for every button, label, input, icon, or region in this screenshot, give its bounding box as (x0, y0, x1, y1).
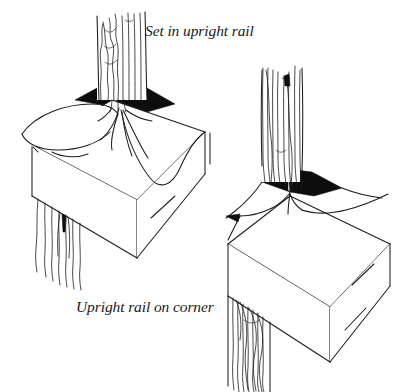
left-upright-rail-post (97, 12, 147, 112)
illustration-canvas (0, 0, 405, 392)
figure-root: Set in upright rail Upright rail on corn… (0, 0, 405, 392)
caption-set-in-upright-rail: Set in upright rail (145, 22, 254, 40)
right-upright-rail-post (261, 66, 303, 188)
caption-upright-rail-on-corner: Upright rail on corner (76, 298, 214, 316)
